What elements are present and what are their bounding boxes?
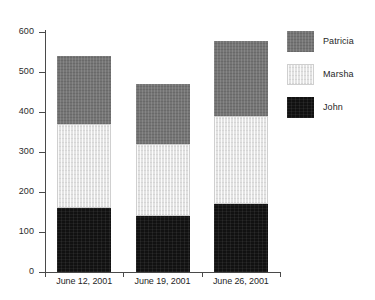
legend-item[interactable]: Marsha [287, 63, 373, 85]
y-tick-label: 400 [0, 107, 34, 116]
y-axis-line [45, 30, 46, 273]
y-tick-mark [39, 112, 45, 113]
y-tick-label: 0 [0, 267, 34, 276]
bar-stack[interactable] [57, 56, 111, 272]
chart-legend: PatriciaMarshaJohn [287, 30, 373, 129]
y-tick-label: 600 [0, 27, 34, 36]
legend-item[interactable]: John [287, 96, 373, 118]
bar-segment-marsha[interactable] [136, 144, 190, 216]
y-tick-label: 200 [0, 187, 34, 196]
y-tick-mark [39, 32, 45, 33]
bar-segment-marsha[interactable] [57, 124, 111, 208]
x-axis-line [45, 272, 280, 273]
legend-label: Marsha [323, 70, 354, 79]
y-tick-mark [39, 72, 45, 73]
legend-swatch-john [287, 97, 314, 118]
x-tick-mark [280, 272, 281, 277]
y-tick-mark [39, 232, 45, 233]
bar-segment-john[interactable] [136, 216, 190, 272]
y-tick-mark [39, 192, 45, 193]
bar-stack[interactable] [214, 41, 268, 272]
y-tick-mark [39, 152, 45, 153]
category-label: June 26, 2001 [202, 277, 280, 287]
legend-label: Patricia [323, 37, 354, 46]
stacked-bar-chart: 0100200300400500600 June 12, 2001June 19… [0, 0, 375, 300]
y-tick-label: 500 [0, 67, 34, 76]
bar-segment-john[interactable] [57, 208, 111, 272]
bar-segment-patricia[interactable] [214, 41, 268, 116]
bar-stack[interactable] [136, 84, 190, 272]
y-tick-label: 100 [0, 227, 34, 236]
category-label: June 12, 2001 [45, 277, 123, 287]
y-tick-label: 300 [0, 147, 34, 156]
bar-segment-patricia[interactable] [136, 84, 190, 144]
category-label: June 19, 2001 [123, 277, 201, 287]
legend-label: John [323, 103, 343, 112]
legend-swatch-marsha [287, 64, 314, 85]
legend-item[interactable]: Patricia [287, 30, 373, 52]
legend-swatch-patricia [287, 31, 314, 52]
bar-segment-marsha[interactable] [214, 116, 268, 204]
bar-segment-john[interactable] [214, 204, 268, 272]
bar-segment-patricia[interactable] [57, 56, 111, 124]
